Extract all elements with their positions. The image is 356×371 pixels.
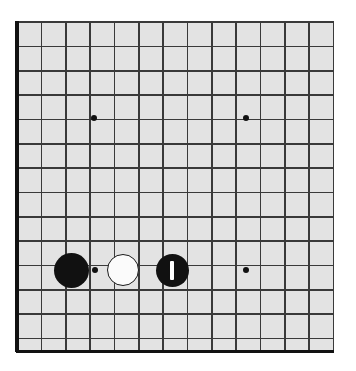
black-stone-left[interactable] (54, 253, 89, 288)
black-stone-marked[interactable] (156, 254, 189, 287)
white-stone-center[interactable] (107, 254, 139, 286)
go-board-diagram (0, 0, 356, 371)
grid-lines (17, 22, 334, 352)
stone-mark-vertical-bar-icon (170, 261, 174, 280)
board-grid (0, 0, 356, 371)
